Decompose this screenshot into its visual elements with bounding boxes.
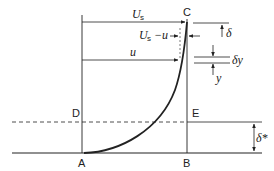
u-label: u: [130, 45, 136, 59]
point-A-label: A: [78, 157, 86, 169]
y-label: y: [215, 71, 222, 85]
point-D-label: D: [72, 107, 80, 119]
point-E-label: E: [192, 107, 199, 119]
point-B-label: B: [183, 157, 190, 169]
us-minus-u-subscript: s: [147, 34, 151, 43]
boundary-layer-diagram: U s U s −u u C D E A B δ δy y δ*: [0, 0, 274, 171]
point-C-label: C: [183, 6, 191, 18]
us-minus-u-rest: −u: [154, 28, 168, 42]
delta-label: δ: [226, 26, 232, 40]
velocity-profile-curve: [84, 22, 187, 153]
us-subscript: s: [140, 13, 144, 22]
delta-y-label: δy: [232, 53, 244, 67]
delta-star-label: δ*: [256, 131, 268, 145]
